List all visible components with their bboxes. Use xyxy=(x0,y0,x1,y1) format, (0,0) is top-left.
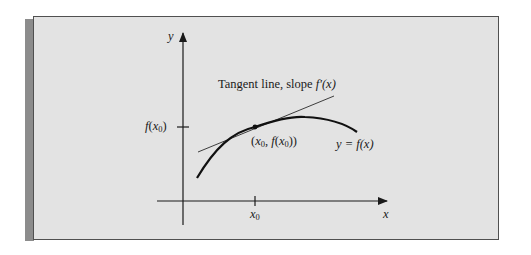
paren: ) xyxy=(162,119,166,133)
x-axis-label: x xyxy=(383,208,389,221)
subscript: 0 xyxy=(256,212,260,222)
y-axis-label: y xyxy=(168,30,174,43)
point-annotation: (x0, f(x0)) xyxy=(251,135,297,149)
tangent-annotation: Tangent line, slope f′(x) xyxy=(218,78,336,91)
curve-label: y = f(x) xyxy=(336,138,374,151)
x-tick-label: x0 xyxy=(250,208,260,222)
paren: )) xyxy=(289,134,297,148)
tangent-text: Tangent line, slope xyxy=(218,77,316,91)
tangent-point xyxy=(253,125,258,130)
derivative-symbol: f′(x) xyxy=(316,77,336,91)
tangent-diagram xyxy=(0,0,531,255)
y-tick-label: f(x0) xyxy=(145,120,167,134)
